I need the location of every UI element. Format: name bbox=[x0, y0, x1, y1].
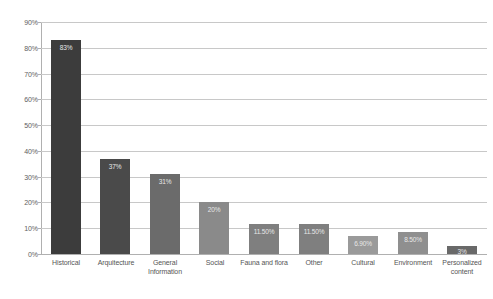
x-axis-category-label: Arquitecture bbox=[88, 258, 144, 267]
y-axis-tick-label: 80% bbox=[4, 45, 38, 52]
bar-value-label: 6.90% bbox=[348, 240, 378, 247]
x-axis-category-label: Cultural bbox=[335, 258, 391, 267]
x-axis-category-label: Historical bbox=[38, 258, 94, 267]
x-axis-category-label: Environment bbox=[385, 258, 441, 267]
bar[interactable]: 11.50% bbox=[299, 224, 329, 254]
plot-area: 83%37%31%20%11.50%11.50%6.90%8.50%3% bbox=[41, 22, 487, 254]
bar-value-label: 31% bbox=[150, 178, 180, 185]
bar-value-label: 11.50% bbox=[249, 228, 279, 235]
y-axis-tick-label: 30% bbox=[4, 174, 38, 181]
x-axis-labels: HistoricalArquitectureGeneral Informatio… bbox=[41, 258, 487, 296]
bar-value-label: 37% bbox=[100, 163, 130, 170]
bar-value-label: 20% bbox=[199, 206, 229, 213]
y-axis-tick-label: 70% bbox=[4, 71, 38, 78]
y-axis-tick-label: 20% bbox=[4, 199, 38, 206]
gridline bbox=[41, 151, 487, 152]
bar[interactable]: 6.90% bbox=[348, 236, 378, 254]
bar-value-label: 8.50% bbox=[398, 236, 428, 243]
x-axis-category-label: Personalized content bbox=[434, 258, 490, 276]
y-axis-tick-label: 90% bbox=[4, 19, 38, 26]
y-axis-tick-label: 10% bbox=[4, 225, 38, 232]
bar[interactable]: 3% bbox=[447, 246, 477, 254]
bar-chart: 90%80%70%60%50%40%30%20%10%0% 83%37%31%2… bbox=[0, 0, 493, 299]
y-axis-tick-label: 60% bbox=[4, 96, 38, 103]
gridline bbox=[41, 125, 487, 126]
bar[interactable]: 8.50% bbox=[398, 232, 428, 254]
bar[interactable]: 20% bbox=[199, 202, 229, 254]
y-axis-tick-label: 0% bbox=[4, 251, 38, 258]
gridline bbox=[41, 22, 487, 23]
x-axis-category-label: General Information bbox=[137, 258, 193, 276]
y-axis-tick-label: 40% bbox=[4, 148, 38, 155]
bar[interactable]: 11.50% bbox=[249, 224, 279, 254]
bar[interactable]: 31% bbox=[150, 174, 180, 254]
x-axis-category-label: Other bbox=[286, 258, 342, 267]
bar-value-label: 83% bbox=[51, 44, 81, 51]
x-axis-category-label: Fauna and flora bbox=[236, 258, 292, 267]
y-axis: 90%80%70%60%50%40%30%20%10%0% bbox=[0, 22, 38, 255]
bar-value-label: 3% bbox=[447, 248, 477, 255]
bar[interactable]: 37% bbox=[100, 159, 130, 254]
bar-value-label: 11.50% bbox=[299, 228, 329, 235]
x-axis-category-label: Social bbox=[187, 258, 243, 267]
gridline bbox=[41, 99, 487, 100]
bar[interactable]: 83% bbox=[51, 40, 81, 254]
gridline bbox=[41, 254, 487, 255]
gridline bbox=[41, 74, 487, 75]
y-axis-tick-label: 50% bbox=[4, 122, 38, 129]
gridline bbox=[41, 48, 487, 49]
